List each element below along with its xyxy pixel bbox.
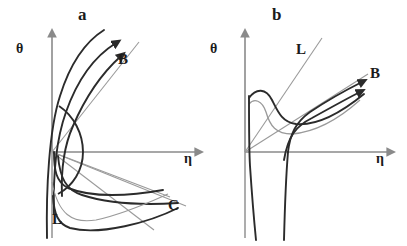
panel-a-label: a bbox=[78, 6, 87, 23]
panel-a-label-B: B bbox=[118, 52, 128, 67]
trajectory-b-saddle-1 bbox=[288, 82, 362, 152]
panel-a-label-C: C bbox=[168, 198, 179, 213]
asymptote-C2-a bbox=[52, 152, 170, 197]
panel-b-asymptotes bbox=[245, 38, 368, 152]
panel-a-label-L: L bbox=[52, 212, 62, 227]
trajectory-b-hump bbox=[249, 91, 364, 124]
trajectory-b-vertical-right bbox=[284, 152, 288, 240]
panel-b-y-axis-label: θ bbox=[210, 42, 217, 56]
figure-root: a θ η B C L b θ η L B bbox=[0, 0, 407, 246]
asymptote-L-b bbox=[245, 38, 322, 152]
panel-b bbox=[245, 36, 388, 240]
panel-b-x-axis-label: η bbox=[376, 152, 384, 166]
trajectory-b-vertical-left bbox=[249, 96, 256, 240]
panel-a-x-axis-label: η bbox=[184, 152, 192, 166]
trajectory-a-middle bbox=[54, 43, 116, 214]
panel-b-label: b bbox=[272, 6, 281, 23]
panel-b-axes bbox=[245, 36, 388, 238]
panel-a-y-axis-label: θ bbox=[16, 42, 23, 56]
trajectory-a-lower-2 bbox=[58, 156, 178, 204]
asymptote-B-b bbox=[245, 74, 368, 152]
panel-b-hump bbox=[249, 91, 364, 124]
panel-b-label-L: L bbox=[296, 42, 306, 57]
panel-a-lower-trajectories bbox=[53, 152, 178, 230]
phase-portrait-svg bbox=[0, 0, 407, 246]
panel-a-upper-trajectories bbox=[47, 30, 121, 238]
panel-b-saddle bbox=[284, 82, 362, 160]
panel-b-label-B: B bbox=[370, 66, 380, 81]
